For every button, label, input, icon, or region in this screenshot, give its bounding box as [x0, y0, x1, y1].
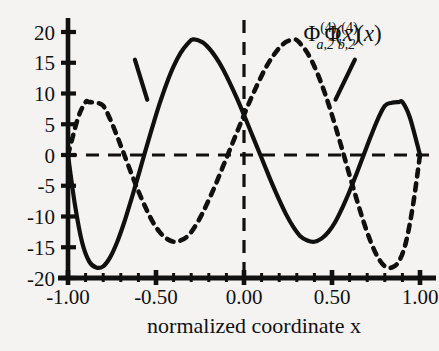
x-tick-label: -1.00	[46, 285, 90, 309]
chart-canvas: 20151050-5-10-15-20-1.00-0.500.000.501.0…	[0, 0, 439, 351]
phi-subscript: b,2	[338, 37, 356, 52]
phi-paren-close: )	[374, 21, 382, 46]
y-tick-label: -5	[38, 174, 56, 198]
y-tick-label: -15	[27, 236, 55, 260]
y-tick-label: 5	[45, 113, 56, 137]
chart-figure: 20151050-5-10-15-20-1.00-0.500.000.501.0…	[0, 0, 439, 351]
x-tick-label: 1.00	[402, 285, 439, 309]
phi-variable: x	[363, 21, 375, 46]
y-tick-label: -10	[27, 205, 55, 229]
x-tick-label: -0.50	[134, 285, 178, 309]
x-tick-label: 0.00	[226, 285, 263, 309]
y-tick-label: 0	[45, 144, 56, 168]
x-tick-label: 0.50	[314, 285, 351, 309]
phi-paren-open: (	[356, 21, 364, 46]
y-tick-label: 10	[34, 82, 55, 106]
y-tick-label: 20	[34, 21, 55, 45]
x-axis-title: normalized coordinate x	[147, 313, 361, 338]
y-tick-label: 15	[34, 51, 55, 75]
